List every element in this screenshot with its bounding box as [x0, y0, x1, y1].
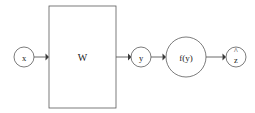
edge-input-to-weights	[34, 54, 49, 61]
arrowhead-input-to-weights	[46, 54, 50, 61]
node-preactivation[interactable]: y	[131, 47, 151, 67]
node-weights-label: W	[78, 52, 88, 63]
node-output-label: z	[234, 55, 238, 65]
node-output[interactable]: ^ z	[226, 47, 246, 67]
node-input[interactable]: x	[14, 47, 34, 67]
edge-weights-to-preactivation	[116, 54, 132, 61]
edge-preactivation-to-activation	[151, 54, 166, 61]
node-weights[interactable]: W	[49, 6, 116, 108]
node-activation-label: f(y)	[179, 53, 193, 63]
arrowhead-preactivation-to-activation	[163, 54, 167, 61]
edge-activation-to-output	[206, 54, 226, 61]
node-activation[interactable]: f(y)	[166, 37, 206, 77]
arrowhead-activation-to-output	[223, 54, 227, 61]
diagram-canvas: x W y f(y) ^ z	[0, 0, 255, 113]
flow-diagram: x W y f(y) ^ z	[0, 0, 255, 113]
